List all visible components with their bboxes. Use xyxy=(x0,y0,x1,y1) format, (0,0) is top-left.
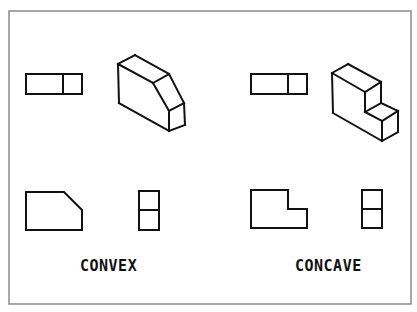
iso-edge xyxy=(365,112,382,121)
convex-isometric-view xyxy=(118,55,185,131)
top-view-outline xyxy=(251,74,307,94)
iso-edge xyxy=(332,64,348,73)
iso-edge xyxy=(153,83,169,111)
concave-label: CONCAVE xyxy=(295,257,362,275)
diagram-canvas: CONVEX CONCAVE xyxy=(0,0,417,312)
iso-edge xyxy=(381,103,398,111)
concave-isometric-view xyxy=(332,64,398,141)
convex-top-view xyxy=(26,74,82,94)
iso-edge xyxy=(382,111,398,121)
convex-side-view xyxy=(139,191,159,230)
concave-panel: CONCAVE xyxy=(251,64,398,275)
iso-edge xyxy=(153,74,169,83)
iso-edge xyxy=(119,103,169,131)
iso-edge xyxy=(382,132,398,141)
iso-edge xyxy=(169,125,185,131)
convex-label: CONVEX xyxy=(80,257,137,275)
iso-edge xyxy=(365,103,381,112)
iso-edge xyxy=(118,55,135,64)
concave-top-view xyxy=(251,74,307,94)
front-view-outline xyxy=(26,192,82,230)
iso-edge xyxy=(135,55,169,74)
iso-edge xyxy=(118,64,119,103)
concave-front-view xyxy=(251,190,307,228)
iso-edge xyxy=(169,103,184,111)
iso-edge xyxy=(184,103,185,125)
iso-edge xyxy=(118,64,153,83)
top-view-outline xyxy=(26,74,82,94)
iso-edge xyxy=(332,73,333,113)
front-view-outline xyxy=(251,190,307,228)
concave-side-view xyxy=(362,190,382,228)
iso-edge xyxy=(348,64,381,82)
iso-edge xyxy=(169,74,184,103)
iso-edge xyxy=(332,73,365,92)
convex-panel: CONVEX xyxy=(26,55,185,275)
iso-edge xyxy=(365,82,381,92)
convex-front-view xyxy=(26,192,82,230)
